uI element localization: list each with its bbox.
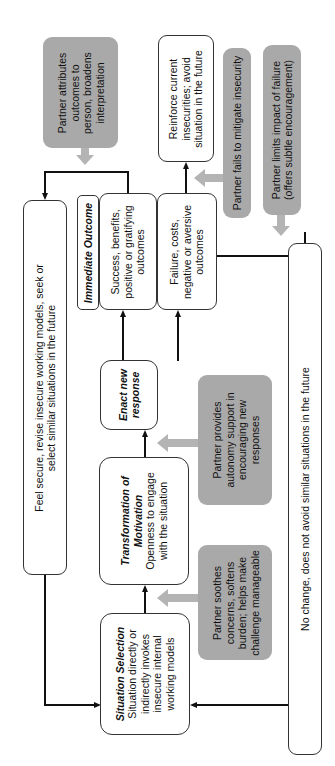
transformation-title-line-2: Motivation <box>132 495 145 548</box>
reinforce-line-1: Reinforce current <box>167 58 180 139</box>
situation-selection-box: Situation Selection Situation directly o… <box>100 613 190 735</box>
failure-box: Failure, costs, negative or aversive out… <box>157 193 217 310</box>
partner-autonomy-box: Partner provides autonomy support in enc… <box>198 375 272 505</box>
connector-failure-reinforce <box>185 169 187 194</box>
immediate-outcome-label: Immediate Outcome <box>82 202 95 302</box>
reinforce-line-3: situation in the future <box>192 50 205 147</box>
partner-attributes-line-3: person, broadens <box>81 52 94 134</box>
partner-autonomy-line-4: responses <box>248 416 261 464</box>
partner-limits-line-1: Partner limits impact of failure <box>270 61 283 199</box>
feel-secure-line-2: select similar situations in the future <box>45 304 58 470</box>
situation-title: Situation Selection <box>114 627 127 722</box>
connector-situation-transformation <box>144 592 146 613</box>
failure-line-1: Failure, costs, <box>168 219 181 284</box>
partner-soothes-line-4: challenge manageable <box>248 550 261 656</box>
partner-autonomy-line-3: encouraging new <box>235 400 248 480</box>
transformation-line-2: with the situation <box>157 482 170 560</box>
connector-nochange-left <box>196 704 288 706</box>
partner-autonomy-line-2: autonomy support in <box>223 392 236 487</box>
success-line-2: positive or gratifying <box>122 205 135 298</box>
gray-arrow-limits-head <box>272 226 290 236</box>
gray-arrow-soothes-stem <box>167 594 198 602</box>
arrowhead-into-success <box>120 310 126 317</box>
connector-enact-failure <box>177 317 179 361</box>
partner-autonomy-line-1: Partner provides <box>210 401 223 478</box>
transformation-line-1: Openness to engage <box>144 472 157 570</box>
gray-arrow-soothes-head <box>157 589 168 607</box>
partner-soothes-line-1: Partner soothes <box>210 565 223 639</box>
situation-line-1: Situation directly or <box>126 629 139 718</box>
success-box: Success, benefits, positive or gratifyin… <box>99 193 157 310</box>
situation-line-3: insecure internal <box>151 635 164 712</box>
partner-attributes-line-4: interpretation <box>93 62 106 123</box>
arrowhead-into-situation-right <box>190 702 197 708</box>
partner-fails-box: Partner fails to mitigate insecurity <box>223 48 251 218</box>
no-change-line-1: No change, does not avoid similar situat… <box>299 367 312 631</box>
connector-success-down <box>44 171 46 194</box>
feel-secure-line-1: Feel secure, revise insecure working mod… <box>33 264 46 511</box>
reinforce-line-2: insecurities; avoid <box>180 57 193 140</box>
failure-line-2: negative or aversive <box>181 205 194 299</box>
immediate-outcome-label-box: Immediate Outcome <box>77 195 99 310</box>
arrowhead-into-transformation <box>142 585 148 592</box>
connector-feelsecure-right <box>44 704 96 706</box>
gray-arrow-autonomy-stem <box>167 439 198 447</box>
gray-arrow-autonomy-head <box>157 434 168 452</box>
gray-arrow-attributes-head <box>76 155 94 165</box>
arrowhead-into-reinforce <box>183 162 189 169</box>
connector-enact-success <box>122 317 124 361</box>
partner-soothes-box: Partner soothes concerns, softens burden… <box>198 545 272 660</box>
partner-attributes-box: Partner attributes outcomes to person, b… <box>43 37 118 148</box>
partner-attributes-line-2: outcomes to <box>68 64 81 121</box>
transformation-title-line-1: Transformation of <box>119 476 132 566</box>
reinforce-box: Reinforce current insecurities; avoid si… <box>158 35 214 162</box>
success-line-1: Success, benefits, <box>109 209 122 294</box>
arrowhead-into-enact <box>142 430 148 437</box>
connector-feelsecure-down <box>44 575 46 706</box>
arrowhead-into-feelsecure <box>42 193 48 200</box>
connector-success-left <box>44 171 129 173</box>
connector-transformation-enact <box>144 437 146 458</box>
partner-soothes-line-3: burden; helps make <box>235 556 248 648</box>
situation-line-4: working models <box>164 638 177 711</box>
connector-success-up <box>127 171 129 194</box>
feel-secure-box: Feel secure, revise insecure working mod… <box>23 200 67 575</box>
partner-attributes-line-1: Partner attributes <box>56 52 69 133</box>
enact-title-line-2: response <box>129 372 142 419</box>
partner-limits-line-2: (offers subtle encouragement) <box>282 60 295 200</box>
partner-soothes-line-2: concerns, softens <box>223 561 236 643</box>
arrowhead-into-failure <box>175 310 181 317</box>
gray-arrow-fails-stem <box>204 174 223 182</box>
partner-fails-line-1: Partner fails to mitigate insecurity <box>231 56 244 211</box>
enact-box: Enact new response <box>100 360 158 430</box>
failure-line-3: outcomes <box>193 229 206 275</box>
gray-arrow-fails-head <box>194 169 205 187</box>
situation-line-2: indirectly invokes <box>139 634 152 714</box>
partner-limits-box: Partner limits impact of failure (offers… <box>263 45 301 215</box>
success-line-3: outcomes <box>134 229 147 275</box>
transformation-box: Transformation of Motivation Openness to… <box>99 457 189 585</box>
no-change-box: No change, does not avoid similar situat… <box>288 243 322 755</box>
enact-title-line-1: Enact new <box>117 369 130 421</box>
